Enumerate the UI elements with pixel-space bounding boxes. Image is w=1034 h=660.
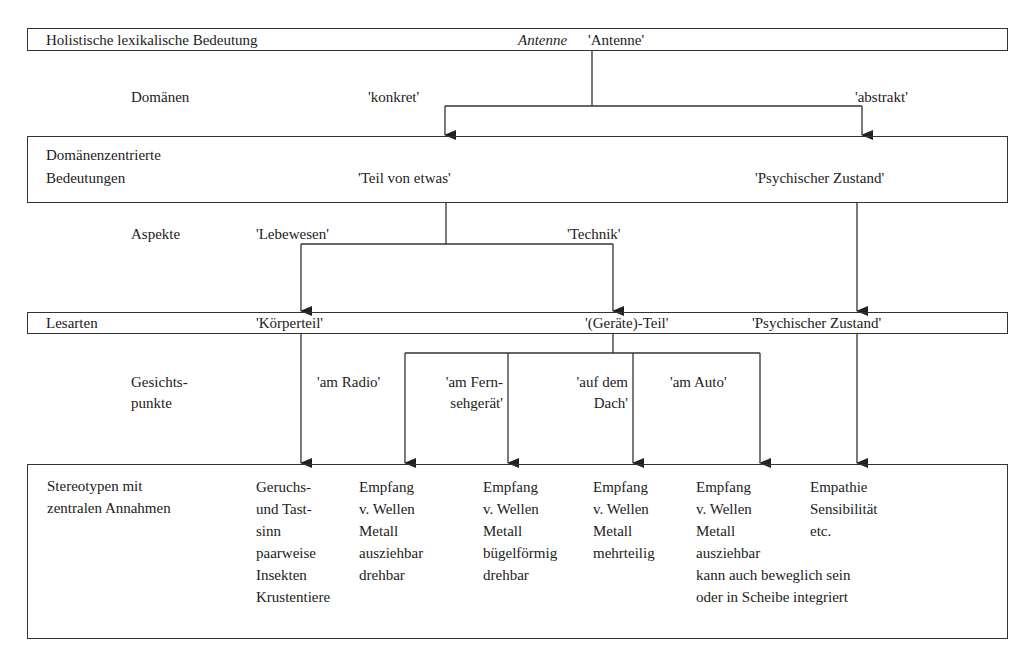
viewpoint-auf-dem-dach-2: Dach' bbox=[555, 393, 628, 413]
domain-konkret: 'konkret' bbox=[368, 87, 419, 107]
viewpoint-am-radio: 'am Radio' bbox=[317, 372, 380, 392]
stereotype-dach: Empfang v. Wellen Metall mehrteilig bbox=[593, 476, 655, 564]
aspect-technik: 'Technik' bbox=[567, 224, 621, 244]
meaning-psychischer-zustand: 'Psychischer Zustand' bbox=[755, 168, 884, 188]
stereotype-radio: Empfang v. Wellen Metall ausziehbar dreh… bbox=[359, 476, 423, 586]
meaning-teil-von-etwas: 'Teil von etwas' bbox=[358, 168, 451, 188]
stereotype-fernseher: Empfang v. Wellen Metall bügelförmig dre… bbox=[483, 476, 557, 586]
viewpoints-label-1: Gesichts- bbox=[131, 372, 188, 392]
viewpoints-label-2: punkte bbox=[131, 393, 172, 413]
domains-label: Domänen bbox=[131, 87, 189, 107]
domain-abstrakt: 'abstrakt' bbox=[855, 87, 908, 107]
headword-gloss: 'Antenne' bbox=[588, 30, 644, 50]
domain-centered-label-1: Domänenzentrierte bbox=[46, 145, 161, 165]
aspects-label: Aspekte bbox=[131, 224, 180, 244]
viewpoint-am-auto: 'am Auto' bbox=[670, 372, 727, 392]
readings-label: Lesarten bbox=[46, 313, 98, 333]
reading-psychischer-zustand: 'Psychischer Zustand' bbox=[752, 313, 881, 333]
stereotypes-label-2: zentralen Annahmen bbox=[47, 498, 171, 518]
reading-koerperteil: 'Körperteil' bbox=[256, 313, 323, 333]
viewpoint-am-fernsehgeraet-2: sehgerät' bbox=[425, 393, 503, 413]
reading-geraete-teil: '(Geräte)-Teil' bbox=[585, 313, 668, 333]
viewpoint-am-fernsehgeraet-1: 'am Fern- bbox=[425, 372, 503, 392]
headword: Antenne bbox=[518, 30, 567, 50]
aspect-lebewesen: 'Lebewesen' bbox=[256, 224, 329, 244]
viewpoint-auf-dem-dach-1: 'auf dem bbox=[555, 372, 628, 392]
stereotypes-label-1: Stereotypen mit bbox=[47, 476, 142, 496]
stereotype-psychisch: Empathie Sensibilität etc. bbox=[810, 476, 878, 542]
holistic-meaning-label: Holistische lexikalische Bedeutung bbox=[46, 30, 258, 50]
stereotype-koerperteil: Geruchs- und Tast- sinn paarweise Insekt… bbox=[256, 476, 330, 608]
domain-centered-label-2: Bedeutungen bbox=[46, 168, 125, 188]
